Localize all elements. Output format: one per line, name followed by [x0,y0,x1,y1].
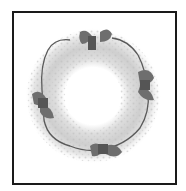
lace-wreath-image [0,0,186,191]
